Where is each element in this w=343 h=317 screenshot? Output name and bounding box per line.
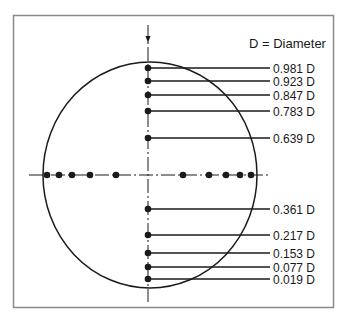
measurement-point [237,172,244,179]
measurement-point [145,250,152,257]
point-label: 0.847 D [273,89,315,103]
measurement-point [145,92,152,99]
point-label: 0.361 D [273,203,315,217]
measurement-point [145,65,152,72]
point-label: 0.019 D [273,273,315,287]
measurement-point [56,172,63,179]
point-label: 0.639 D [273,132,315,146]
point-label: 0.783 D [273,105,315,119]
measurement-point [145,108,152,115]
legend-label: D = Diameter [249,36,327,51]
measurement-point [145,264,152,271]
measurement-point [180,172,187,179]
measurement-point [145,276,152,283]
point-label: 0.923 D [273,75,315,89]
measurement-point [87,172,94,179]
measurement-point [44,172,51,179]
point-label: 0.217 D [273,229,315,243]
point-label: 0.981 D [273,62,315,76]
measurement-point [223,172,230,179]
measurement-point [145,78,152,85]
measurement-point [145,232,152,239]
measurement-point [113,172,120,179]
point-label: 0.153 D [273,247,315,261]
measurement-point-diagram: D = Diameter 0.981 D0.923 D0.847 D0.783 … [0,0,343,317]
measurement-point [145,206,152,213]
measurement-point [206,172,213,179]
measurement-point [145,135,152,142]
measurement-point [248,172,255,179]
measurement-point [69,172,76,179]
